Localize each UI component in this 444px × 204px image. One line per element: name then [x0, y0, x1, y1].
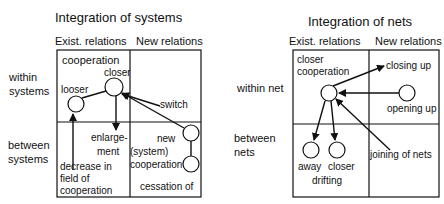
left-col-header-existing: Exist. relations: [55, 36, 127, 47]
system-label: (system): [130, 147, 168, 157]
right-col-header-new: New relations: [375, 36, 442, 47]
cessation-label: cessation of: [140, 182, 193, 192]
closing-up-label: closing up: [386, 61, 431, 71]
row-label-within-net: within net: [237, 83, 283, 94]
cessation-node: [183, 156, 199, 172]
closer-coop-label-1: closer: [297, 55, 324, 65]
new-node: [183, 125, 199, 141]
looser-label: looser: [61, 85, 88, 95]
row-label-systems-2: systems: [8, 154, 48, 165]
away-label: away: [298, 162, 321, 172]
away-node: [303, 142, 319, 158]
closer-coop-label-2: cooperation: [297, 67, 349, 77]
cooperation-label: cooperation: [62, 55, 120, 66]
decrease-label-1: decrease in: [60, 162, 112, 172]
row-label-nets: nets: [234, 147, 255, 158]
row-label-between-nets: between: [234, 133, 276, 144]
closer-net-node: [329, 142, 345, 158]
main-net-node: [321, 85, 337, 101]
closer-net-label: closer: [328, 162, 355, 172]
decrease-label-2: field of: [60, 174, 89, 184]
switch-label: switch: [160, 100, 188, 110]
joining-label: joining of nets: [370, 150, 432, 160]
opening-up-label: opening up: [387, 104, 437, 114]
new-label: new: [157, 134, 175, 144]
enlargement-label-2: ment: [97, 147, 119, 157]
opening-up-node: [399, 85, 415, 101]
row-label-within: within: [9, 72, 37, 83]
drifting-label: drifting: [312, 176, 342, 186]
looser-node: [68, 96, 84, 112]
closer-node: [105, 78, 123, 96]
left-col-header-new: New relations: [136, 36, 203, 47]
enlargement-label-1: enlarge-: [91, 133, 128, 143]
left-title: Integration of systems: [55, 11, 182, 24]
closer-label: closer: [104, 68, 131, 78]
row-label-systems: systems: [9, 86, 49, 97]
right-title: Integration of nets: [308, 15, 412, 28]
decrease-label-3: cooperation: [60, 186, 112, 196]
right-col-header-existing: Exist. relations: [289, 36, 361, 47]
row-label-between: between: [8, 140, 50, 151]
cooperation2-label: cooperation: [130, 160, 182, 170]
